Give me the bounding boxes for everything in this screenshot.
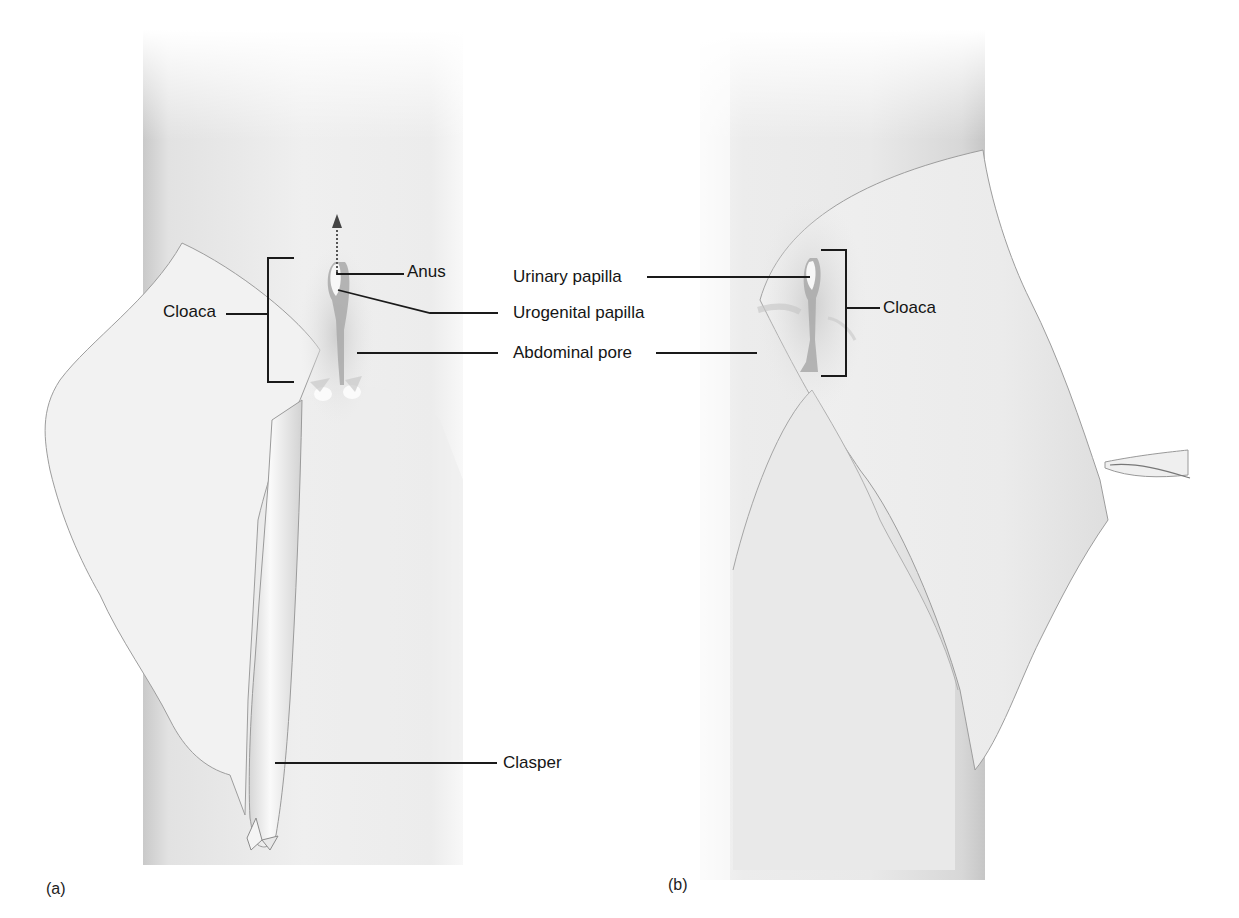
panel-letter-a: (a) xyxy=(46,880,66,898)
label-anus: Anus xyxy=(407,262,446,282)
panel-a-male xyxy=(45,30,498,865)
label-urinary-papilla: Urinary papilla xyxy=(513,267,622,287)
panel-b-female xyxy=(647,30,1190,880)
label-cloaca-b: Cloaca xyxy=(883,298,936,318)
label-cloaca-a: Cloaca xyxy=(163,302,216,322)
label-abdominal-pore: Abdominal pore xyxy=(513,343,632,363)
anatomy-figure: Cloaca Anus Urogenital papilla Abdominal… xyxy=(0,0,1239,918)
panel-letter-b: (b) xyxy=(668,876,688,894)
caudal-tip-b xyxy=(1105,450,1188,477)
diagram-illustration xyxy=(0,0,1239,918)
label-urogenital-papilla: Urogenital papilla xyxy=(513,303,644,323)
label-clasper: Clasper xyxy=(503,753,562,773)
